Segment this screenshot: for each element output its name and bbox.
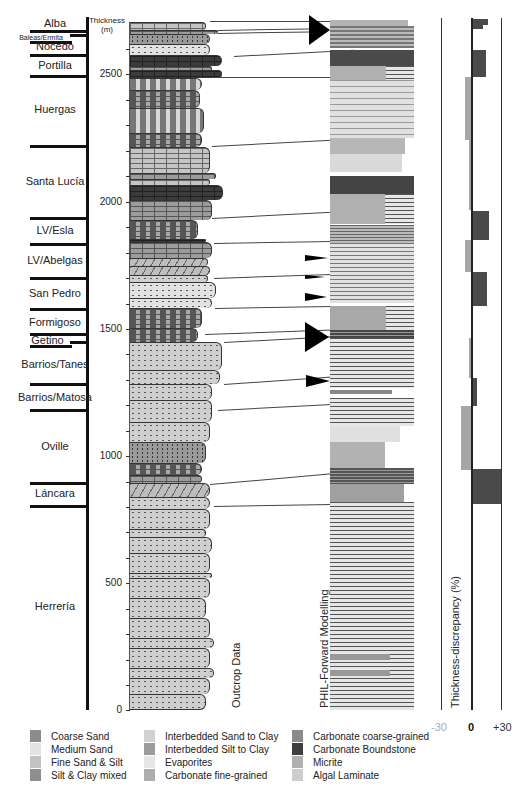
model-band	[386, 306, 414, 330]
bed-fine-sand	[130, 422, 210, 442]
formation-label-lv-abelgas: LV/Abelgas	[5, 254, 105, 266]
bed-fine-sand	[130, 497, 210, 509]
legend-label: Evaporites	[165, 757, 212, 768]
arrow-icon	[305, 275, 325, 279]
formation-boundary	[30, 308, 86, 311]
discrepancy-axis-plus30	[501, 18, 502, 710]
bed-fine-sand	[130, 678, 210, 694]
correlation-line	[214, 504, 332, 507]
model-band	[330, 154, 402, 172]
legend-label: Carbonate Boundstone	[313, 744, 416, 755]
legend-item-algal-laminate: Algal Laminate	[292, 769, 379, 782]
formation-boundary	[30, 30, 86, 33]
discrepancy-bar-lv-esla	[473, 211, 489, 240]
legend-item-medium-sand: Medium Sand	[30, 743, 113, 756]
formation-label-herreria: Herrería	[5, 600, 105, 612]
bed-fine-sand	[130, 648, 210, 668]
legend-swatch	[30, 743, 41, 755]
model-band	[330, 390, 392, 394]
bed-interbedded-silt-clay	[130, 308, 202, 328]
formation-label-barrios-tanes: Barrios/Tanes	[5, 358, 105, 370]
bed-carbonate-coarse	[130, 475, 202, 483]
legend-swatch	[292, 756, 303, 768]
formation-boundary	[30, 217, 86, 220]
legend-item-fine-sand-silt: Fine Sand & Silt	[30, 756, 123, 769]
bed-medium-sand	[130, 282, 216, 298]
correlation-line	[212, 212, 332, 219]
discrepancy-tick-plus30: +30	[493, 721, 512, 733]
formation-label-lv-esla: LV/Esla	[5, 224, 105, 236]
discrepancy-bar-lv-abelgas	[465, 240, 471, 272]
bed-interbedded-sand-clay	[130, 108, 204, 133]
formation-label-san-pedro: San Pedro	[5, 287, 105, 299]
bed-interbedded-silt-clay	[130, 133, 202, 147]
tick-label-500: 500	[82, 577, 122, 588]
bed-boundstone	[130, 185, 223, 200]
bed-interbedded-silt-clay	[130, 463, 202, 475]
legend-label: Algal Laminate	[313, 770, 379, 781]
bed-fine-sand	[130, 529, 206, 537]
legend-item-carbonate-coarse: Carbonate coarse-grained	[292, 730, 429, 743]
legend-label: Fine Sand & Silt	[51, 757, 123, 768]
legend-label: Micrite	[313, 757, 342, 768]
bed-fine-sand	[130, 275, 208, 282]
legend-label: Medium Sand	[51, 744, 113, 755]
discrepancy-axis-label: Thickness-discrepancy (%)	[449, 576, 461, 708]
formation-boundary	[30, 54, 86, 57]
legend-item-coarse-sand: Coarse Sand	[30, 730, 109, 743]
discrepancy-tick-minus30: -30	[431, 721, 447, 733]
formation-boundary	[30, 277, 86, 280]
legend-swatch	[30, 769, 41, 781]
legend-swatch	[144, 730, 155, 742]
discrepancy-bar-portilla	[473, 50, 486, 77]
bed-fine-sand	[130, 342, 222, 370]
arrow-icon	[305, 322, 329, 352]
discrepancy-axis-zero	[471, 18, 473, 710]
formation-boundary	[30, 345, 72, 348]
legend-label: Coarse Sand	[51, 731, 109, 742]
bed-evaporites	[130, 266, 210, 275]
correlation-line	[214, 241, 332, 244]
legend-item-micrite: Micrite	[292, 756, 342, 769]
forward-model-column	[330, 18, 414, 710]
correlation-line	[215, 306, 332, 309]
bed-carbonate-fine	[130, 22, 206, 30]
formation-boundary	[30, 505, 86, 508]
model-band	[330, 426, 400, 442]
correlation-line	[218, 28, 310, 31]
bed-coarse-sand	[130, 34, 210, 44]
bed-fine-sand	[130, 553, 210, 573]
arrow-icon	[306, 375, 330, 387]
model-band	[330, 243, 414, 303]
bed-evaporites	[130, 258, 208, 266]
legend-item-carbonate-boundstone: Carbonate Boundstone	[292, 743, 416, 756]
formation-label-nocedo: Nocedo	[5, 40, 105, 52]
bed-boundstone	[130, 55, 222, 66]
formation-boundary	[30, 75, 86, 78]
model-band	[385, 194, 414, 224]
bed-fine-sand	[130, 384, 212, 400]
model-band	[330, 654, 390, 660]
legend-item-silt-clay-mixed: Silt & Clay mixed	[30, 769, 127, 782]
legend-swatch	[144, 756, 155, 768]
discrepancy-bar-oville	[461, 406, 471, 470]
bed-carbonate-coarse	[130, 242, 212, 258]
model-band	[330, 442, 385, 468]
legend-swatch	[292, 769, 303, 781]
model-band	[330, 26, 414, 48]
bed-fine-sand	[130, 598, 206, 618]
legend-item-interbedded-silt-clay: Interbedded Silt to Clay	[144, 743, 269, 756]
bed-medium-sand	[130, 298, 212, 308]
arrow-icon	[305, 255, 328, 261]
tick-label-0: 0	[82, 704, 122, 715]
bed-fine-sand	[130, 694, 206, 710]
legend-swatch	[30, 730, 41, 742]
legend-label: Carbonate coarse-grained	[313, 731, 429, 742]
bed-fine-sand	[130, 618, 210, 638]
bed-boundstone	[130, 70, 222, 78]
bed-interbedded-silt-clay	[130, 328, 198, 342]
model-band	[330, 484, 404, 502]
bed-fine-sand	[130, 537, 212, 553]
discrepancy-bar-san-pedro	[473, 272, 487, 306]
model-band	[386, 66, 414, 80]
